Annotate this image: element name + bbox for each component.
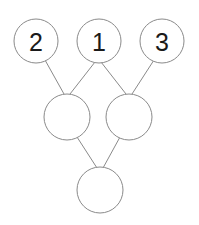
- edge-midright-to-bottom: [103, 137, 120, 168]
- node-label-top-middle: 1: [92, 28, 106, 56]
- edge-1-to-midright: [101, 62, 126, 94]
- edge-2-to-midleft: [45, 60, 64, 94]
- node-circle-mid-left[interactable]: [44, 94, 90, 140]
- bottom-row: [77, 167, 123, 213]
- node-bottom[interactable]: [77, 167, 123, 213]
- node-top-left[interactable]: 2: [14, 19, 58, 63]
- edge-1-to-midleft: [70, 62, 95, 94]
- node-label-top-right: 3: [155, 28, 169, 56]
- node-label-top-left: 2: [29, 28, 43, 56]
- node-mid-left[interactable]: [44, 94, 90, 140]
- node-top-middle[interactable]: 1: [77, 19, 121, 63]
- diagram-canvas: 213: [0, 0, 199, 225]
- node-link-diagram: 213: [0, 0, 199, 225]
- node-circle-bottom[interactable]: [77, 167, 123, 213]
- nodes-group: 213: [14, 19, 184, 213]
- node-mid-right[interactable]: [106, 94, 152, 140]
- middle-row: [44, 94, 152, 140]
- edge-midleft-to-bottom: [77, 137, 97, 168]
- top-row: 213: [14, 19, 184, 63]
- node-top-right[interactable]: 3: [140, 19, 184, 63]
- edge-3-to-midright: [132, 60, 154, 94]
- node-circle-mid-right[interactable]: [106, 94, 152, 140]
